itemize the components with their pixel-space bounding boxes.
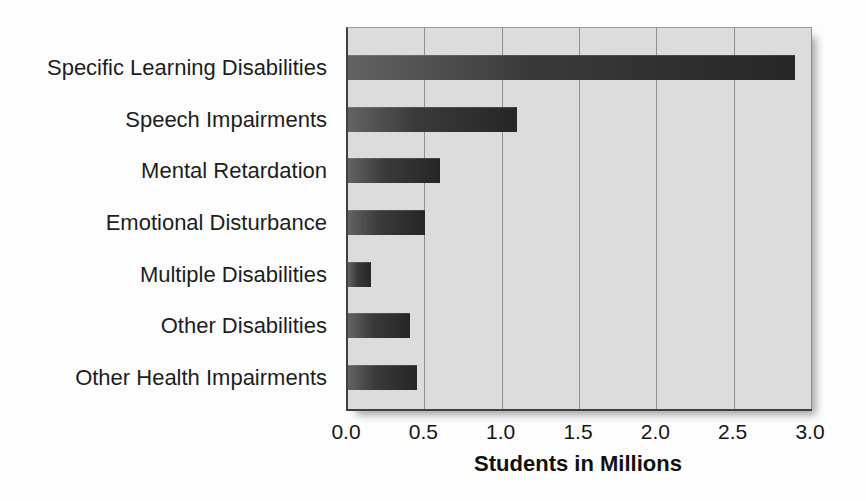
x-tick-label-1.0: 1.0 <box>469 420 533 444</box>
bar-3 <box>348 158 440 183</box>
bar-chart-figure: Specific Learning DisabilitiesSpeech Imp… <box>0 0 866 501</box>
x-tick-label-0.0: 0.0 <box>314 420 378 444</box>
bars-layer <box>348 27 810 408</box>
bar-4 <box>348 210 425 235</box>
x-axis-title: Students in Millions <box>346 451 810 477</box>
bar-row <box>348 210 810 235</box>
bar-5 <box>348 262 371 287</box>
category-label-3: Mental Retardation <box>0 158 336 183</box>
bar-row <box>348 365 810 390</box>
bar-row <box>348 55 810 80</box>
category-label-2: Speech Impairments <box>0 107 336 132</box>
x-tick-label-2.0: 2.0 <box>623 420 687 444</box>
x-tick-label-1.5: 1.5 <box>546 420 610 444</box>
bar-2 <box>348 107 517 132</box>
category-label-1: Specific Learning Disabilities <box>0 55 336 80</box>
gridline-x-3.0 <box>811 28 812 409</box>
bar-row <box>348 158 810 183</box>
x-tick-label-3.0: 3.0 <box>778 420 842 444</box>
category-labels: Specific Learning DisabilitiesSpeech Imp… <box>0 27 336 408</box>
x-tick-label-2.5: 2.5 <box>701 420 765 444</box>
bar-6 <box>348 313 410 338</box>
bar-1 <box>348 55 795 80</box>
category-label-5: Multiple Disabilities <box>0 262 336 287</box>
category-label-7: Other Health Impairments <box>0 365 336 390</box>
bar-7 <box>348 365 417 390</box>
category-label-4: Emotional Disturbance <box>0 210 336 235</box>
category-label-6: Other Disabilities <box>0 313 336 338</box>
bar-row <box>348 107 810 132</box>
bar-row <box>348 262 810 287</box>
x-tick-label-0.5: 0.5 <box>391 420 455 444</box>
bar-row <box>348 313 810 338</box>
